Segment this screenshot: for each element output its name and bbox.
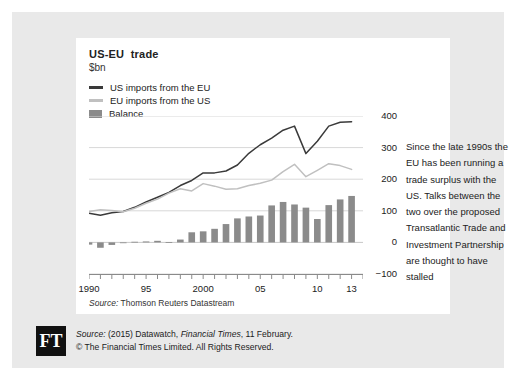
chart-source-rest: Thomson Reuters Datastream: [118, 298, 234, 308]
y-tick-label: −100: [365, 268, 397, 279]
x-tick-label: 05: [240, 283, 280, 294]
y-tick-label: 300: [365, 142, 397, 153]
footer-source-prefix: Source:: [76, 329, 106, 339]
chart-source-prefix: Source:: [89, 298, 118, 308]
footer-text: Source: (2015) Datawatch, Financial Time…: [76, 328, 293, 354]
footer-copyright: © The Financial Times Limited. All Right…: [76, 341, 293, 354]
chart-panel: US-EU trade $bn US imports from the EU E…: [76, 38, 450, 314]
footer-source-line: Source: (2015) Datawatch, Financial Time…: [76, 328, 293, 341]
legend-swatch-eu-imports: [89, 99, 103, 102]
legend-swatch-us-imports: [89, 86, 103, 89]
y-tick-label: 200: [365, 173, 397, 184]
y-tick-label: 100: [365, 205, 397, 216]
chart-unit-label: $bn: [89, 62, 106, 73]
x-tick-label: 2000: [183, 283, 223, 294]
footer-source-date: , 11 February.: [241, 329, 293, 339]
legend-label-us-imports: US imports from the EU: [110, 82, 210, 94]
balance-bars: [89, 196, 355, 248]
chart-legend: US imports from the EU EU imports from t…: [89, 81, 299, 120]
x-axis-ticks: [89, 274, 363, 282]
chart-lines: [89, 122, 352, 216]
chart-source: Source: Thomson Reuters Datastream: [89, 298, 234, 308]
chart-svg: [89, 116, 363, 274]
chart-plot-area: [89, 116, 363, 274]
x-tick-label: 13: [332, 283, 372, 294]
legend-item-us-imports: US imports from the EU: [89, 81, 299, 94]
page-title: US-EU trade: [89, 48, 159, 60]
x-tick-label: 1990: [69, 283, 109, 294]
x-tick-label: 95: [126, 283, 166, 294]
chart-card: US-EU trade $bn US imports from the EU E…: [12, 12, 504, 368]
screenshot-root: US-EU trade $bn US imports from the EU E…: [0, 0, 516, 380]
y-tick-label: 400: [365, 110, 397, 121]
footer-source-publication: Financial Times: [181, 329, 241, 339]
ft-logo: FT: [36, 326, 66, 356]
y-tick-label: 0: [365, 236, 397, 247]
footer: FT Source: (2015) Datawatch, Financial T…: [24, 324, 504, 368]
chart-gridlines: [89, 116, 363, 274]
x-axis: [89, 274, 363, 282]
legend-item-eu-imports: EU imports from the US: [89, 94, 299, 107]
legend-label-eu-imports: EU imports from the US: [110, 95, 210, 107]
footer-source-mid: (2015) Datawatch,: [106, 329, 181, 339]
annotation-text: Since the late 1990s the EU has been run…: [406, 139, 512, 286]
